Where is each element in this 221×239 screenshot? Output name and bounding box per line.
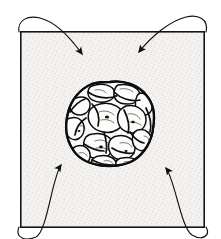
figure-container: Lobulated mass within stippled square fi… (0, 0, 221, 239)
illustration-canvas (0, 0, 221, 239)
